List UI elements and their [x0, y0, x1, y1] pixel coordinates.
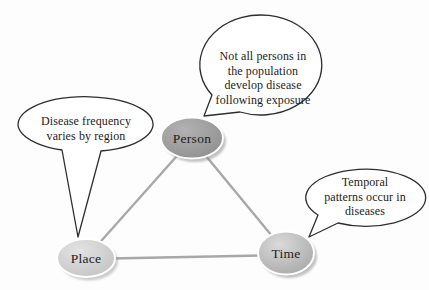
node-person: Person [161, 118, 226, 163]
node-place: Place [57, 239, 118, 281]
node-time-label: Time [271, 246, 300, 261]
callout-place-line: Disease frequency [41, 114, 131, 128]
node-place-label: Place [71, 251, 102, 266]
node-person-label: Person [173, 131, 212, 146]
callout-place-line: varies by region [47, 129, 126, 143]
callout-person-line: develop disease [224, 78, 301, 92]
callout-time-line: Temporal [342, 175, 389, 189]
callout-person-line: Not all persons in [220, 49, 307, 63]
callout-place: Disease frequency varies by region [18, 97, 153, 237]
callout-person: Not all persons in the population develo… [200, 15, 322, 116]
epidemiologic-triangle-diagram: Not all persons in the population develo… [0, 0, 429, 290]
callout-time: Temporal patterns occur in diseases [306, 169, 426, 237]
callout-time-line: diseases [345, 204, 385, 218]
callout-person-line: the population [228, 64, 298, 78]
diagram-canvas: Not all persons in the population develo… [0, 0, 429, 290]
node-time: Time [258, 232, 317, 279]
callout-time-line: patterns occur in [324, 190, 406, 204]
callout-person-line: following exposure [216, 93, 311, 107]
